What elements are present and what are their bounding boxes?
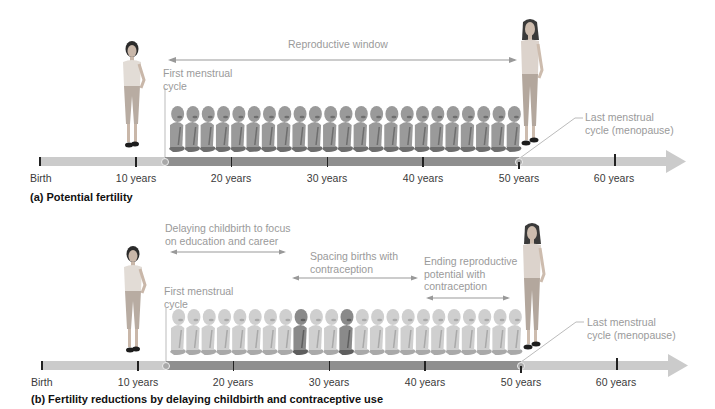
baby-icon (323, 309, 339, 355)
baby-icon (415, 309, 431, 355)
baby-icon (338, 309, 354, 355)
baby-icon (308, 309, 324, 355)
tick-label-50: 50 years (501, 376, 541, 388)
tick-60 (616, 358, 618, 370)
baby-icon (491, 309, 507, 355)
baby-icon (216, 309, 232, 355)
girl-figure-icon (118, 245, 148, 357)
baby-icon (354, 309, 370, 355)
babies-row (168, 306, 520, 356)
tick-10 (137, 361, 139, 371)
baby-icon (262, 309, 278, 355)
post-fertility-segment (521, 361, 671, 370)
tick-label-birth: Birth (31, 376, 53, 388)
baby-icon (507, 309, 523, 355)
baby-icon (292, 309, 308, 355)
baby-icons (168, 306, 520, 356)
baby-icon (170, 309, 186, 355)
tick-50 (520, 366, 522, 373)
first-cycle-marker (162, 362, 170, 370)
tick-label-60: 60 years (596, 376, 636, 388)
woman-figure-icon (516, 222, 548, 354)
baby-icon (445, 309, 461, 355)
fertile-segment (166, 361, 521, 370)
baby-icon (369, 309, 385, 355)
panel-fertility-reductions: Delaying childbirth to focus on educatio… (0, 0, 715, 409)
tick-40 (424, 361, 426, 371)
last-menstrual-cycle-label: Last menstrual cycle (menopause) (587, 316, 676, 341)
tick-20 (233, 361, 235, 371)
baby-icon (185, 309, 201, 355)
baby-icon (201, 309, 217, 355)
tick-label-20: 20 years (213, 376, 253, 388)
panel-caption: (b) Fertility reductions by delaying chi… (31, 393, 383, 405)
pre-fertility-segment (41, 361, 166, 370)
tick-30 (329, 361, 331, 371)
tick-birth (41, 361, 43, 370)
baby-icon (476, 309, 492, 355)
baby-icon (430, 309, 446, 355)
baby-icon (400, 309, 416, 355)
tick-label-10: 10 years (118, 376, 158, 388)
tick-label-30: 30 years (309, 376, 349, 388)
baby-icon (384, 309, 400, 355)
tick-label-40: 40 years (405, 376, 445, 388)
baby-icon (231, 309, 247, 355)
baby-icon (247, 309, 263, 355)
baby-icon (461, 309, 477, 355)
baby-icon (277, 309, 293, 355)
arrow-head-icon (668, 354, 688, 377)
